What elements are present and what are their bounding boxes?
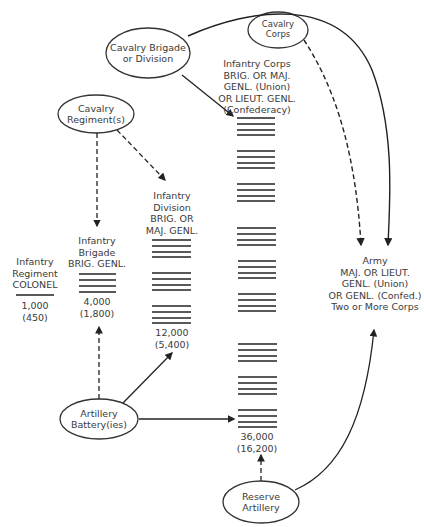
infantry-brigade-label: Infantry Brigade BRIG. GENL. [68,235,126,270]
actual-strength-value: (16,200) [237,443,278,455]
label-line: Infantry [12,256,58,268]
arrow-artillery-to-division [123,353,172,403]
infantry-corps-label: Infantry Corps BRIG. OR MAJ. GENL. (Unio… [218,58,296,116]
label-line: Artillery [242,502,280,513]
label-line: Cavalry [67,103,125,114]
artillery-battery-label: Artillery Battery(ies) [71,408,127,430]
reserve-artillery-label: Reserve Artillery [242,491,280,513]
label-line: OR GENL. (Confed.) [328,290,421,302]
label-line: Cavalry [262,19,294,29]
actual-strength-value: (450) [21,312,48,324]
strength-value: 36,000 [237,431,278,443]
label-line: Infantry [146,190,198,202]
strength-value: 1,000 [21,300,48,312]
label-line: Regiment(s) [67,114,125,125]
strength-value: 4,000 [80,296,115,308]
label-line: Corps [262,29,294,39]
label-line: MAJ. OR LIEUT. [328,267,421,279]
infantry-corps-strength: 36,000 (16,200) [237,431,278,454]
label-line: Cavalry Brigade [110,42,186,53]
corps-bars [237,118,277,427]
label-line: or Division [110,53,186,64]
label-line: BRIG. OR [146,213,198,225]
label-line: Artillery [71,408,127,419]
cavalry-regiment-label: Cavalry Regiment(s) [67,103,125,125]
arrow-cav-brigade-to-army [188,14,390,245]
arrow-reserve-to-army [295,330,374,490]
label-line: GENL. (Union) [328,278,421,290]
label-line: MAJ. GENL. [146,225,198,237]
label-line: Division [146,202,198,214]
infantry-division-label: Infantry Division BRIG. OR MAJ. GENL. [146,190,198,236]
label-line: COLONEL [12,279,58,291]
label-line: Regiment [12,268,58,280]
brigade-bars [79,274,116,292]
division-bars [152,240,191,323]
label-line: Two or More Corps [328,301,421,313]
cavalry-brigade-label: Cavalry Brigade or Division [110,42,186,64]
army-label: Army MAJ. OR LIEUT. GENL. (Union) OR GEN… [328,255,421,313]
label-line: (Confederacy) [218,104,296,116]
infantry-regiment-label: Infantry Regiment COLONEL [12,256,58,291]
actual-strength-value: (5,400) [155,339,190,351]
arrow-cav-regiment-to-division [117,130,165,180]
label-line: Reserve [242,491,280,502]
strength-value: 12,000 [155,327,190,339]
label-line: BRIG. GENL. [68,258,126,270]
infantry-brigade-strength: 4,000 (1,800) [80,296,115,319]
actual-strength-value: (1,800) [80,308,115,320]
label-line: Battery(ies) [71,419,127,430]
label-line: GENL. (Union) [218,81,296,93]
label-line: Infantry [68,235,126,247]
infantry-division-strength: 12,000 (5,400) [155,327,190,350]
label-line: BRIG. OR MAJ. [218,70,296,82]
infantry-regiment-strength: 1,000 (450) [21,300,48,323]
cavalry-corps-label: Cavalry Corps [262,19,294,39]
label-line: Army [328,255,421,267]
arrow-cav-corps-to-army [304,40,361,245]
label-line: Brigade [68,247,126,259]
label-line: Infantry Corps [218,58,296,70]
label-line: OR LIEUT. GENL. [218,93,296,105]
